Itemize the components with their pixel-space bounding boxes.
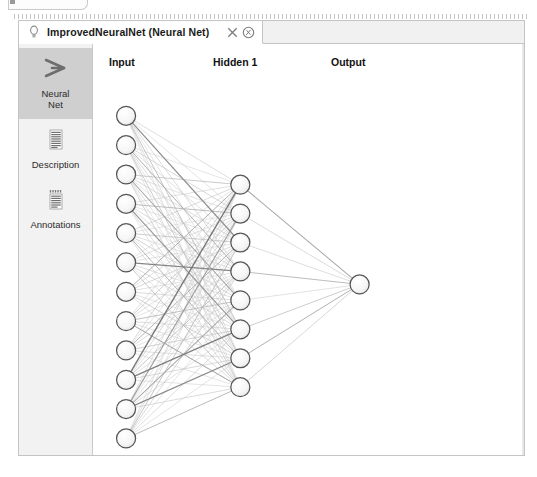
edge-input-hidden bbox=[126, 116, 240, 185]
node-input[interactable] bbox=[117, 136, 136, 155]
node-hidden1[interactable] bbox=[231, 175, 250, 194]
neural-net-fan-icon bbox=[39, 56, 73, 82]
node-input[interactable] bbox=[117, 341, 136, 360]
edge-input-hidden bbox=[126, 387, 240, 409]
tab-bar: ImprovedNeuralNet (Neural Net) bbox=[19, 21, 524, 44]
edges-input-hidden bbox=[126, 116, 240, 439]
sidebar-item-label-line2: Net bbox=[21, 99, 90, 110]
node-hidden1[interactable] bbox=[231, 233, 250, 252]
node-hidden1[interactable] bbox=[231, 262, 250, 281]
close-icon[interactable] bbox=[227, 27, 238, 38]
sidebar-item-annotations[interactable]: Annotations bbox=[19, 179, 92, 239]
node-input[interactable] bbox=[117, 253, 136, 272]
sidebar-item-description[interactable]: Description bbox=[19, 119, 92, 179]
node-hidden1[interactable] bbox=[231, 378, 250, 397]
edge-input-hidden bbox=[126, 243, 240, 439]
node-input[interactable] bbox=[117, 194, 136, 213]
edges-hidden-output bbox=[240, 185, 359, 388]
network-graph bbox=[93, 44, 524, 455]
edge-hidden-output bbox=[240, 284, 359, 300]
edge-hidden-output bbox=[240, 284, 359, 358]
desktop-fragment-bar bbox=[8, 0, 88, 10]
tab-title: ImprovedNeuralNet (Neural Net) bbox=[47, 26, 209, 38]
neural-net-window: ImprovedNeuralNet (Neural Net) Neural Ne… bbox=[18, 20, 525, 456]
edge-hidden-output bbox=[240, 284, 359, 329]
node-input[interactable] bbox=[117, 370, 136, 389]
sidebar: Neural Net Description bbox=[19, 44, 93, 455]
neural-net-canvas[interactable]: Input Hidden 1 Output bbox=[93, 44, 524, 455]
node-input[interactable] bbox=[117, 429, 136, 448]
sidebar-item-neural-net[interactable]: Neural Net bbox=[19, 48, 92, 119]
pin-circle-icon[interactable] bbox=[242, 26, 255, 39]
tab-improvedneuralnet[interactable]: ImprovedNeuralNet (Neural Net) bbox=[19, 21, 263, 44]
desktop-fragment-nub bbox=[10, 0, 15, 4]
annotations-icon bbox=[39, 187, 73, 213]
desktop-ruler-strip bbox=[14, 14, 528, 19]
node-hidden1[interactable] bbox=[231, 349, 250, 368]
layer-title-hidden1: Hidden 1 bbox=[213, 56, 257, 68]
layer-title-input: Input bbox=[109, 56, 135, 68]
node-hidden1[interactable] bbox=[231, 320, 250, 339]
lightbulb-icon bbox=[28, 25, 40, 39]
node-input[interactable] bbox=[117, 282, 136, 301]
node-output[interactable] bbox=[350, 275, 369, 294]
node-input[interactable] bbox=[117, 312, 136, 331]
node-hidden1[interactable] bbox=[231, 204, 250, 223]
layer-title-output: Output bbox=[331, 56, 365, 68]
node-input[interactable] bbox=[117, 165, 136, 184]
node-input[interactable] bbox=[117, 106, 136, 125]
edge-hidden-output bbox=[240, 185, 359, 285]
node-hidden1[interactable] bbox=[231, 291, 250, 310]
sidebar-item-label-line1: Description bbox=[21, 159, 90, 170]
window-body: Neural Net Description bbox=[19, 44, 524, 455]
sidebar-item-label-line1: Annotations bbox=[21, 219, 90, 230]
node-input[interactable] bbox=[117, 224, 136, 243]
canvas-right-edge bbox=[522, 44, 524, 455]
sidebar-item-label-line1: Neural bbox=[21, 88, 90, 99]
document-lines-icon bbox=[39, 127, 73, 153]
edge-hidden-output bbox=[240, 284, 359, 387]
node-input[interactable] bbox=[117, 400, 136, 419]
